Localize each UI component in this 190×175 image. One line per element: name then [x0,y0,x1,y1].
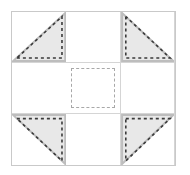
center-dashed-square [71,68,114,108]
half-square-triangle-top-right [12,114,66,165]
quilt-cell-bottom-left [12,114,66,165]
half-square-triangle-bottom-right [12,12,66,62]
quilt-cell-bottom-center [66,114,120,165]
quilt-cell-center [66,63,120,114]
quilt-cell-middle-left [12,63,66,114]
half-square-triangle-top-left [121,114,174,165]
quilt-cell-bottom-right [121,114,175,165]
diagram-canvas [0,0,190,175]
half-square-triangle-bottom-left [121,12,174,62]
quilt-cell-top-right [121,12,175,63]
quilt-cell-top-left [12,12,66,63]
quilt-cell-top-center [66,12,120,63]
quilt-cell-middle-right [121,63,175,114]
quilt-block [11,11,176,166]
